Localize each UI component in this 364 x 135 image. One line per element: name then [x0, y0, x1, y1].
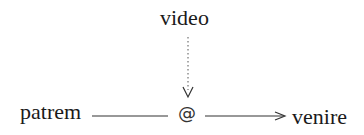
node-video: video [160, 7, 209, 29]
node-venire: venire [292, 106, 347, 128]
node-application-at: @ [178, 104, 196, 122]
arrowhead-down-icon [183, 87, 193, 97]
node-patrem: patrem [20, 101, 81, 123]
